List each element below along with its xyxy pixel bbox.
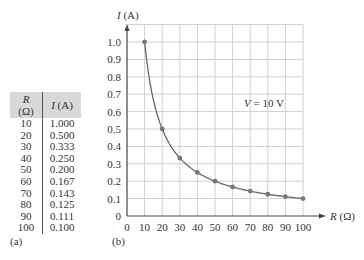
voltage-annotation: V = 10 V: [244, 97, 284, 109]
data-point: [248, 189, 253, 194]
y-tick-label: 0.6: [107, 106, 121, 118]
y-tick-label: 0.7: [107, 88, 121, 100]
x-tick-label: 100: [295, 221, 312, 233]
data-point: [301, 196, 306, 201]
data-point: [177, 156, 182, 161]
data-point: [142, 40, 147, 45]
x-tick-label: 40: [192, 221, 204, 233]
y-tick-label: 0.3: [107, 158, 121, 170]
x-tick-label: 80: [262, 221, 274, 233]
data-point: [195, 170, 200, 175]
y-tick-label: 0: [116, 210, 122, 222]
x-tick-label: 90: [280, 221, 292, 233]
data-point: [230, 185, 235, 190]
y-tick-label: 1.0: [107, 36, 121, 48]
data-point: [265, 192, 270, 197]
y-tick-label: 0.9: [107, 53, 121, 65]
y-tick-label: 0.8: [107, 71, 121, 83]
data-point: [283, 194, 288, 199]
data-point: [160, 127, 165, 132]
y-axis-label: I (A): [116, 9, 139, 22]
y-tick-label: 0.2: [107, 175, 121, 187]
data-point: [213, 179, 218, 184]
x-axis-label: R (Ω): [329, 210, 355, 223]
y-tick-label: 0.5: [107, 123, 121, 135]
y-tick-label: 0.4: [107, 140, 121, 152]
x-axis-arrow-icon: [319, 214, 326, 219]
x-tick-label: 0: [124, 221, 130, 233]
current-vs-resistance-chart: 010203040506070809010000.10.20.30.40.50.…: [0, 0, 364, 260]
x-tick-label: 60: [227, 221, 239, 233]
x-tick-label: 70: [245, 221, 257, 233]
y-tick-label: 0.1: [107, 193, 121, 205]
x-tick-label: 50: [210, 221, 222, 233]
x-tick-label: 20: [157, 221, 169, 233]
x-tick-label: 30: [174, 221, 186, 233]
data-curve: [145, 42, 303, 199]
x-tick-label: 10: [139, 221, 151, 233]
